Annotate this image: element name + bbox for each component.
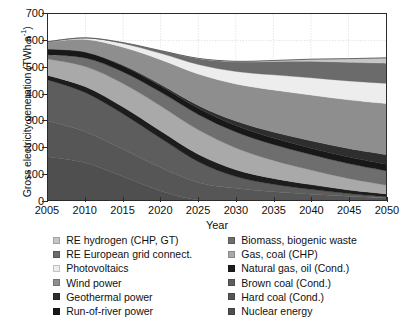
legend-swatch-icon	[228, 279, 235, 286]
x-tick-mark	[123, 197, 124, 202]
legend-item[interactable]: Photovoltaics	[53, 261, 192, 275]
legend-item-label: Wind power	[66, 277, 121, 289]
legend-swatch-icon	[53, 237, 60, 244]
x-tick-mark	[387, 197, 388, 202]
chart-legend: RE hydrogen (CHP, GT)RE European grid co…	[0, 233, 410, 328]
legend-item-label: Hard coal (Cond.)	[241, 291, 324, 303]
legend-swatch-icon	[228, 265, 235, 272]
legend-item[interactable]: Run-of-river power	[53, 304, 192, 318]
y-tick-label: 300	[4, 115, 44, 125]
legend-swatch-icon	[53, 308, 60, 315]
plot-area	[47, 13, 387, 201]
x-tick-label: 2050	[365, 204, 409, 216]
legend-item-label: Natural gas, oil (Cond.)	[241, 262, 349, 274]
legend-item[interactable]: RE European grid connect.	[53, 247, 192, 261]
legend-item[interactable]: Natural gas, oil (Cond.)	[228, 261, 357, 275]
legend-column-right: Biomass, biogenic wasteGas, coal (CHP)Na…	[228, 233, 357, 328]
legend-swatch-icon	[228, 237, 235, 244]
legend-item-label: RE hydrogen (CHP, GT)	[66, 234, 178, 246]
legend-item[interactable]: Gas, coal (CHP)	[228, 247, 357, 261]
legend-item[interactable]: Brown coal (Cond.)	[228, 276, 357, 290]
x-axis-label: Year	[47, 219, 387, 231]
legend-item[interactable]: Geothermal power	[53, 290, 192, 304]
legend-item-label: Run-of-river power	[66, 305, 153, 317]
legend-item[interactable]: Biomass, biogenic waste	[228, 233, 357, 247]
legend-swatch-icon	[228, 251, 235, 258]
stacked-area-svg	[48, 14, 386, 200]
legend-swatch-icon	[53, 279, 60, 286]
legend-item-label: Photovoltaics	[66, 262, 128, 274]
legend-item-label: Geothermal power	[66, 291, 152, 303]
legend-swatch-icon	[53, 293, 60, 300]
legend-swatch-icon	[228, 308, 235, 315]
y-tick-label: 100	[4, 169, 44, 179]
legend-swatch-icon	[228, 293, 235, 300]
chart-figure: Gross electricity generation (TWh a-1) 0…	[0, 0, 410, 328]
x-tick-mark	[311, 197, 312, 202]
legend-item-label: Nuclear energy	[241, 305, 312, 317]
legend-column-left: RE hydrogen (CHP, GT)RE European grid co…	[53, 233, 192, 328]
legend-item-label: Biomass, biogenic waste	[241, 234, 357, 246]
legend-swatch-icon	[53, 251, 60, 258]
x-tick-mark	[349, 197, 350, 202]
legend-item-label: RE European grid connect.	[66, 248, 192, 260]
legend-item[interactable]: Hard coal (Cond.)	[228, 290, 357, 304]
x-tick-mark	[47, 197, 48, 202]
x-tick-mark	[274, 197, 275, 202]
y-tick-label: 500	[4, 62, 44, 72]
x-tick-mark	[160, 197, 161, 202]
legend-item-label: Brown coal (Cond.)	[241, 277, 331, 289]
y-tick-label: 400	[4, 89, 44, 99]
y-axis-label-tail: )	[21, 26, 33, 29]
legend-item[interactable]: Wind power	[53, 276, 192, 290]
area-series-group	[48, 38, 386, 200]
x-tick-mark	[198, 197, 199, 202]
legend-swatch-icon	[53, 265, 60, 272]
y-tick-label: 600	[4, 35, 44, 45]
legend-item-label: Gas, coal (CHP)	[241, 248, 317, 260]
y-tick-label: 200	[4, 142, 44, 152]
x-tick-mark	[85, 197, 86, 202]
legend-item[interactable]: Nuclear energy	[228, 304, 357, 318]
y-tick-label: 700	[4, 8, 44, 18]
legend-item[interactable]: RE hydrogen (CHP, GT)	[53, 233, 192, 247]
x-tick-mark	[236, 197, 237, 202]
